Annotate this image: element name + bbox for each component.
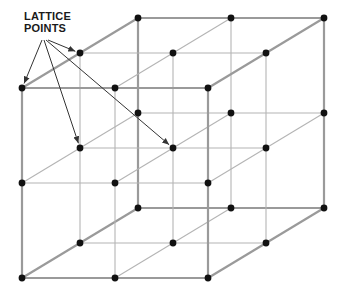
lattice-edge bbox=[115, 148, 173, 183]
lattice-edge bbox=[208, 53, 266, 88]
lattice-point bbox=[170, 240, 177, 247]
lattice-edge bbox=[115, 243, 173, 278]
lattice-point bbox=[19, 85, 26, 92]
lattice-points bbox=[19, 15, 328, 282]
lattice-point bbox=[19, 180, 26, 187]
lattice-point bbox=[170, 50, 177, 57]
label-line-2: POINTS bbox=[24, 22, 71, 34]
lattice-edge bbox=[208, 243, 266, 278]
lattice-point bbox=[205, 85, 212, 92]
lattice-edge bbox=[22, 148, 80, 183]
label-arrows bbox=[24, 40, 169, 145]
lattice-point bbox=[205, 275, 212, 282]
lattice-edge bbox=[80, 208, 138, 243]
lattice-point bbox=[321, 110, 328, 117]
lattice-point bbox=[135, 15, 142, 22]
lattice-point bbox=[263, 50, 270, 57]
lattice-point bbox=[112, 275, 119, 282]
lattice-edge bbox=[266, 113, 324, 148]
lattice-point bbox=[112, 180, 119, 187]
lattice-point bbox=[77, 240, 84, 247]
lattice-edge bbox=[173, 208, 231, 243]
lattice-edge bbox=[266, 208, 324, 243]
lattice-point bbox=[77, 50, 84, 57]
lattice-point bbox=[19, 275, 26, 282]
lattice-point bbox=[170, 145, 177, 152]
lattice-point bbox=[205, 180, 212, 187]
lattice-points-label: LATTICE POINTS bbox=[24, 10, 71, 34]
lattice-edge bbox=[80, 18, 138, 53]
lattice-edge bbox=[266, 18, 324, 53]
lattice-point bbox=[321, 205, 328, 212]
lattice-diagram bbox=[0, 0, 339, 302]
lattice-point bbox=[263, 240, 270, 247]
label-line-1: LATTICE bbox=[24, 10, 71, 22]
lattice-point bbox=[135, 110, 142, 117]
lattice-edge bbox=[80, 113, 138, 148]
lattice-point bbox=[321, 15, 328, 22]
lattice-point bbox=[228, 205, 235, 212]
label-arrow bbox=[44, 40, 78, 143]
lattice-edge bbox=[173, 18, 231, 53]
lattice-edge bbox=[22, 243, 80, 278]
lattice-edge bbox=[208, 148, 266, 183]
lattice-point bbox=[228, 110, 235, 117]
label-arrow bbox=[46, 40, 169, 145]
lattice-point bbox=[228, 15, 235, 22]
lattice-point bbox=[112, 85, 119, 92]
lattice-point bbox=[135, 205, 142, 212]
lattice-point bbox=[77, 145, 84, 152]
lattice-point bbox=[263, 145, 270, 152]
lattice-edge bbox=[173, 113, 231, 148]
lattice-edge bbox=[115, 53, 173, 88]
lattice-edge bbox=[22, 53, 80, 88]
